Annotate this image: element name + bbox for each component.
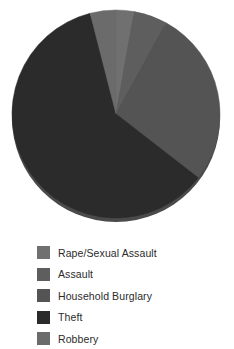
- pie-slice-group: [12, 10, 220, 218]
- legend-item-label: Theft: [58, 311, 82, 323]
- legend-item[interactable]: Theft: [37, 307, 227, 329]
- legend-item[interactable]: Robbery: [37, 328, 227, 349]
- legend-item-label: Robbery: [58, 333, 98, 345]
- legend-swatch-icon: [37, 332, 50, 345]
- legend-item-label: Household Burglary: [58, 290, 152, 302]
- legend-item[interactable]: Assault: [37, 264, 227, 286]
- legend-item[interactable]: Household Burglary: [37, 285, 227, 307]
- legend-swatch-icon: [37, 289, 50, 302]
- pie-chart-svg: [0, 0, 234, 232]
- pie-chart-plot-area: [0, 0, 234, 232]
- legend-item-label: Assault: [58, 268, 93, 280]
- legend-item[interactable]: Rape/Sexual Assault: [37, 242, 227, 264]
- chart-legend: Rape/Sexual Assault Assault Household Bu…: [37, 242, 227, 349]
- legend-swatch-icon: [37, 268, 50, 281]
- legend-swatch-icon: [37, 311, 50, 324]
- legend-item-label: Rape/Sexual Assault: [58, 247, 157, 259]
- legend-swatch-icon: [37, 246, 50, 259]
